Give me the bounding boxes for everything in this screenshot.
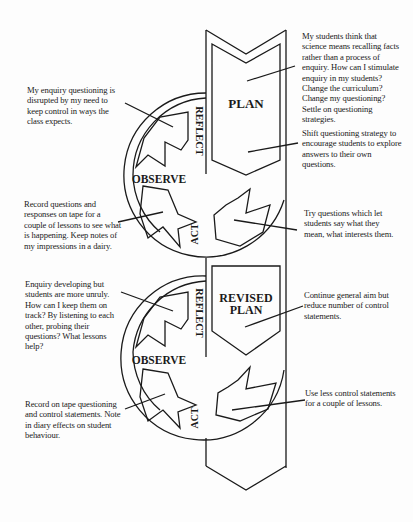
note-reflect-2: Enquiry developing but students are more… (25, 279, 123, 352)
stage-labels: PLAN REFLECT OBSERVE ACT REVISED PLAN RE… (132, 96, 273, 429)
pointer-plan-top (247, 66, 295, 81)
pointer-reflect (125, 103, 173, 127)
act-2-arrow-shape (216, 367, 276, 421)
label-act: ACT (189, 223, 200, 244)
note-observe: Record questions and responses on tape f… (24, 199, 122, 251)
band-top-chevron (206, 30, 286, 54)
pointer-plan-bottom (248, 143, 298, 152)
cycle-2 (121, 266, 305, 440)
label-revised-plan-line2: PLAN (230, 303, 263, 317)
act-arrow-shape (214, 189, 270, 246)
label-act-2: ACT (189, 407, 200, 428)
pointer-observe-2 (125, 394, 165, 409)
cycle-1 (118, 44, 298, 257)
observe-arrow-shape (140, 186, 196, 247)
label-reflect: REFLECT (194, 106, 205, 156)
note-act: Try questions which let students say wha… (304, 208, 399, 239)
note-plan-problem: My students think that science means rec… (302, 31, 402, 125)
note-reflect: My enquiry questioning is disrupted by m… (27, 85, 125, 127)
label-observe-2: OBSERVE (132, 354, 187, 366)
label-plan: PLAN (228, 96, 264, 111)
reflect-arrow-shape (136, 112, 188, 167)
label-reflect-2: REFLECT (194, 288, 205, 338)
label-observe: OBSERVE (132, 173, 187, 185)
band-bottom-chevron (206, 466, 286, 490)
note-revised-plan: Continue general aim but reduce number o… (304, 290, 399, 321)
note-observe-2: Record on tape questioning and control s… (25, 399, 123, 441)
note-act-2: Use less control statements for a couple… (305, 388, 397, 409)
note-plan-strategy: Shift questioning strategy to encourage … (302, 128, 402, 170)
